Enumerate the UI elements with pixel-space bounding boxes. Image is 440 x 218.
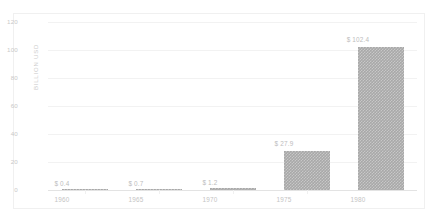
x-tick-label-1970: 1970 xyxy=(187,197,233,203)
x-tick-label-1960: 1960 xyxy=(39,197,85,203)
y-tick-label: 80 xyxy=(0,75,18,81)
y-axis-title: BILLION USD xyxy=(33,27,39,107)
x-tick-label-1975: 1975 xyxy=(261,197,307,203)
y-tick-label: 20 xyxy=(0,159,18,165)
bar-value-label-1975: $ 27.9 xyxy=(261,141,307,147)
bar-chart-figure: BILLION USD 120 100 80 60 40 20 0 $ 0.4 … xyxy=(0,0,440,218)
plot-area xyxy=(48,22,417,190)
bar-1975[interactable] xyxy=(284,151,330,190)
bar-value-label-1960: $ 0.4 xyxy=(39,181,85,187)
x-tick-label-1965: 1965 xyxy=(113,197,159,203)
y-tick-label: 40 xyxy=(0,131,18,137)
y-tick-label: 100 xyxy=(0,47,18,53)
x-tick-label-1980: 1980 xyxy=(335,197,381,203)
x-axis-separator xyxy=(307,190,308,194)
bar-value-label-1980: $ 102.4 xyxy=(335,37,381,43)
x-axis-separator xyxy=(85,190,86,194)
y-tick-label: 60 xyxy=(0,103,18,109)
gridline xyxy=(48,22,417,23)
bar-value-label-1970: $ 1.2 xyxy=(187,180,233,186)
bar-1980[interactable] xyxy=(358,47,404,190)
y-tick-label: 120 xyxy=(0,19,18,25)
x-axis-separator xyxy=(159,190,160,194)
bar-value-label-1965: $ 0.7 xyxy=(113,181,159,187)
y-tick-label: 0 xyxy=(0,187,18,193)
x-axis-separator xyxy=(233,190,234,194)
